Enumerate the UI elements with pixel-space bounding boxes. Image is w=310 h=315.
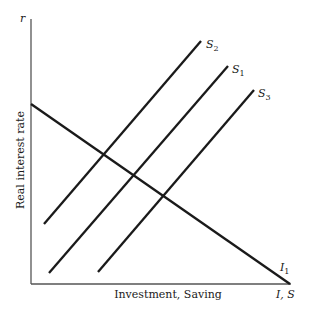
label-s2: S2 — [206, 38, 219, 53]
y-axis-symbol: r — [20, 12, 26, 25]
x-axis-label: Investment, Saving — [114, 288, 222, 301]
saving-curve-s1 — [49, 66, 228, 273]
label-i1: I1 — [279, 261, 289, 276]
label-s3: S3 — [258, 87, 271, 102]
saving-curve-s3 — [98, 90, 254, 272]
loanable-funds-diagram: r Real interest rate Investment, Saving … — [0, 0, 310, 315]
label-s1: S1 — [232, 63, 245, 78]
saving-curve-s2 — [44, 41, 201, 224]
x-axis-symbol: I, S — [275, 288, 295, 301]
y-axis-label: Real interest rate — [14, 111, 27, 209]
